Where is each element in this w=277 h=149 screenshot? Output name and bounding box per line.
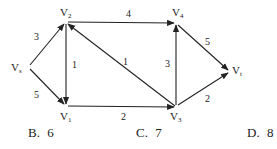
weight-v3-vt: 2 bbox=[205, 93, 210, 104]
weight-vs-v1: 5 bbox=[34, 89, 39, 100]
weight-v4-vt: 5 bbox=[205, 36, 210, 47]
option-b: B. 6 bbox=[28, 125, 54, 141]
weight-v1-v3: 2 bbox=[121, 111, 126, 122]
option-value: 8 bbox=[267, 125, 274, 140]
option-value: 6 bbox=[47, 125, 54, 140]
weight-v3-v2: 1 bbox=[123, 56, 128, 67]
edges bbox=[30, 22, 228, 107]
node-vt: Vt bbox=[232, 64, 242, 78]
option-c: C. 7 bbox=[136, 125, 162, 141]
edge-v3-v2 bbox=[68, 24, 175, 106]
edge-v2-v4 bbox=[68, 22, 174, 23]
weight-v3-v4: 3 bbox=[165, 58, 170, 69]
weight-v2-v4: 4 bbox=[126, 8, 131, 19]
weight-v2-v1: 1 bbox=[72, 59, 77, 70]
option-letter: C. bbox=[136, 125, 148, 140]
weight-vs-v2: 3 bbox=[34, 31, 39, 42]
option-letter: B. bbox=[28, 125, 40, 140]
edge-v3-vt bbox=[178, 73, 228, 105]
answer-options: B. 6 C. 7 D. 8 bbox=[0, 125, 277, 145]
option-letter: D. bbox=[247, 125, 260, 140]
node-v4: V4 bbox=[172, 6, 184, 20]
node-v1: V1 bbox=[60, 110, 72, 124]
node-v3: V3 bbox=[170, 110, 182, 124]
node-v2: V2 bbox=[60, 6, 72, 20]
node-vs: Vs bbox=[11, 61, 22, 75]
option-value: 7 bbox=[155, 125, 162, 140]
edge-v1-v3 bbox=[68, 106, 174, 107]
edge-v4-vt bbox=[178, 25, 228, 70]
option-d: D. 8 bbox=[247, 125, 273, 141]
network-diagram: 3 5 4 1 1 2 3 5 2 Vs V2 V1 V4 V3 Vt bbox=[0, 0, 277, 125]
